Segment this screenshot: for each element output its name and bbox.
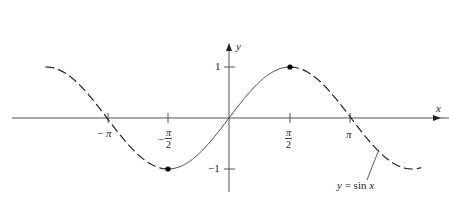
label-neg-pi: − π: [97, 128, 111, 139]
y-axis-arrow-icon: [226, 43, 232, 51]
label-y-neg-one: −1: [208, 163, 220, 174]
frac-num: π: [165, 128, 172, 139]
label-neg-half-pi: π 2: [165, 128, 172, 150]
pi-symbol: π: [106, 127, 112, 139]
label-half-pi: π 2: [285, 128, 292, 150]
x-axis-arrow-icon: [433, 115, 441, 121]
sine-graph: [0, 0, 449, 202]
curve-label: y = sin x: [337, 180, 374, 191]
y-axis-label: y: [236, 41, 241, 52]
point-max: [287, 64, 292, 69]
annotation-leader: [367, 152, 378, 180]
x-axis-label: x: [436, 103, 441, 114]
point-min: [165, 166, 170, 171]
label-pi: π: [346, 129, 352, 140]
minus-sign: −: [97, 127, 103, 139]
frac-num: π: [285, 128, 292, 139]
label-y-one: 1: [215, 61, 221, 72]
neg-sign-half: −: [158, 134, 164, 145]
frac-den: 2: [166, 139, 171, 150]
frac-den: 2: [286, 139, 291, 150]
